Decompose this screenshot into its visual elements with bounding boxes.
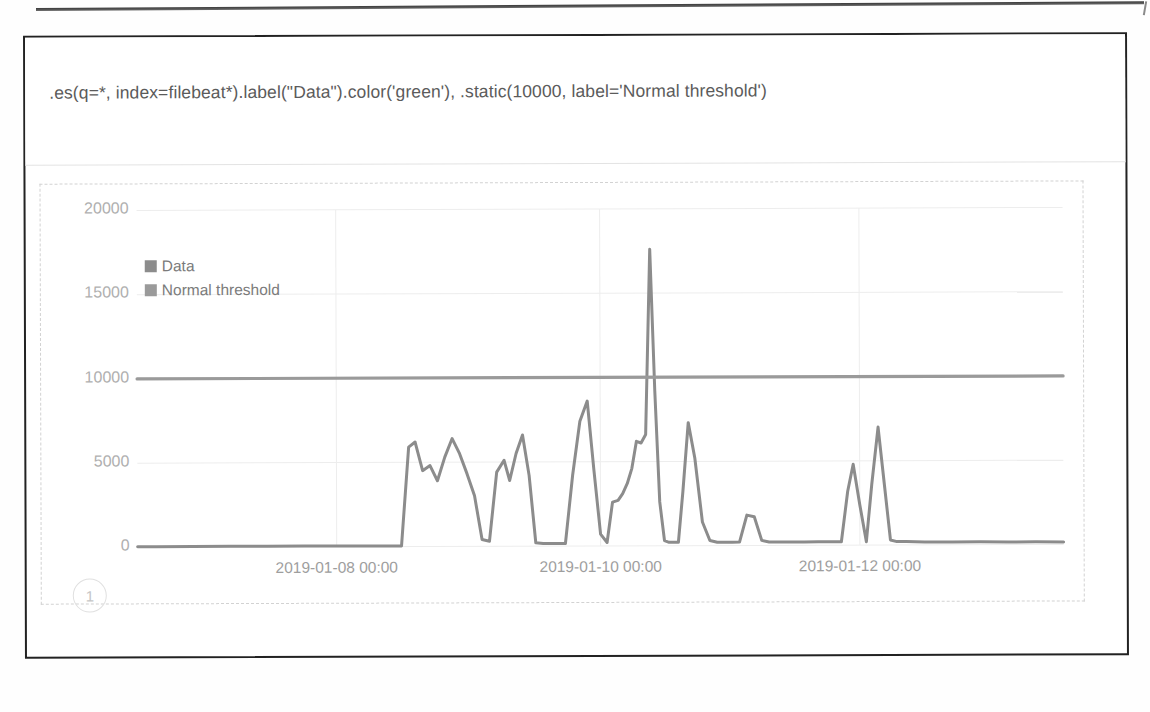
page-top-rule — [36, 1, 1144, 11]
chart-legend: Data Normal threshold — [145, 254, 280, 302]
y-axis-tick-label: 0 — [56, 536, 130, 554]
legend-item-data[interactable]: Data — [145, 254, 280, 278]
expression-input-area[interactable]: .es(q=*, index=filebeat*).label("Data").… — [25, 34, 1125, 165]
legend-label: Data — [162, 254, 195, 278]
x-axis-tick-label: 2019-01-12 00:00 — [765, 557, 955, 576]
y-axis-tick-label: 15000 — [55, 284, 129, 302]
legend-item-threshold[interactable]: Normal threshold — [145, 278, 280, 302]
legend-label: Normal threshold — [162, 278, 280, 302]
legend-swatch-icon — [145, 260, 157, 272]
page-corner-tick — [1143, 1, 1147, 15]
timelion-chart — [40, 181, 1085, 605]
x-axis-tick-label: 2019-01-08 00:00 — [242, 558, 432, 577]
timelion-panel: .es(q=*, index=filebeat*).label("Data").… — [23, 32, 1129, 658]
chart-region: Data Normal threshold 050001000015000200… — [39, 180, 1084, 604]
legend-swatch-icon — [145, 284, 157, 296]
y-axis-tick-label: 5000 — [55, 452, 129, 470]
x-axis-tick-label: 2019-01-10 00:00 — [506, 558, 696, 577]
expression-text[interactable]: .es(q=*, index=filebeat*).label("Data").… — [49, 80, 767, 103]
y-axis-tick-label: 10000 — [55, 368, 129, 386]
annotation-marker: 1 — [73, 578, 107, 612]
y-axis-tick-label: 20000 — [55, 199, 129, 217]
annotation-marker-label: 1 — [86, 587, 94, 604]
scanned-page: .es(q=*, index=filebeat*).label("Data").… — [0, 0, 1150, 712]
